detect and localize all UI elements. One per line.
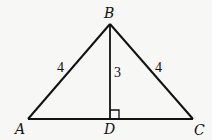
point-label-c: C bbox=[194, 122, 205, 138]
point-label-a: A bbox=[13, 121, 25, 137]
point-label-d: D bbox=[103, 121, 115, 137]
length-label-bc: 4 bbox=[155, 60, 162, 75]
point-label-b: B bbox=[103, 5, 114, 21]
diagram-svg: B A D C 4 4 3 bbox=[0, 0, 212, 140]
length-label-bd: 3 bbox=[114, 65, 121, 80]
length-label-ab: 4 bbox=[57, 60, 64, 75]
segment-bc bbox=[110, 24, 193, 119]
segment-ab bbox=[28, 24, 110, 119]
right-angle-marker-icon bbox=[110, 110, 119, 119]
triangle-diagram: B A D C 4 4 3 bbox=[0, 0, 212, 140]
